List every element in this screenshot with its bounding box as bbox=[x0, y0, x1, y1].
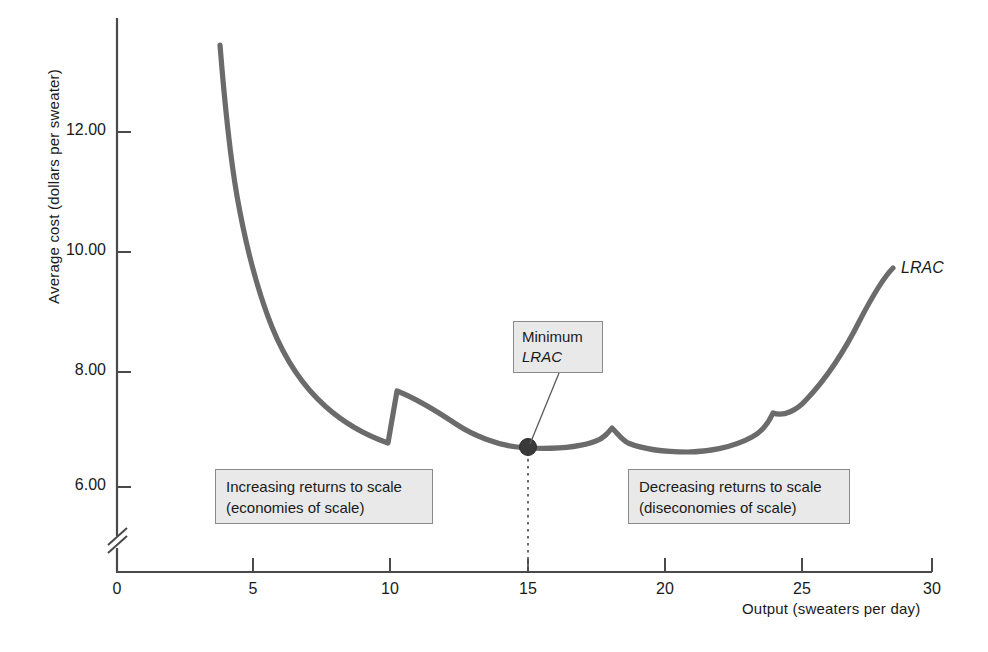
decreasing-returns-note: Decreasing returns to scale (diseconomie… bbox=[628, 469, 850, 524]
lrac-curve bbox=[220, 45, 893, 452]
increasing-returns-note: Increasing returns to scale (economies o… bbox=[215, 469, 433, 524]
lrac-curve-label: LRAC bbox=[901, 259, 944, 277]
y-tick-label-6: 6.00 bbox=[46, 476, 106, 494]
y-tick-label-8: 8.00 bbox=[46, 361, 106, 379]
callout-leader-line bbox=[530, 373, 559, 444]
x-tick-label-30: 30 bbox=[912, 580, 952, 598]
x-tick-label-25: 25 bbox=[782, 580, 822, 598]
minimum-lrac-callout-line2: LRAC bbox=[522, 348, 562, 365]
y-tick-label-10: 10.00 bbox=[46, 241, 106, 259]
x-tick-label-5: 5 bbox=[233, 580, 273, 598]
lrac-chart-figure: Average cost (dollars per sweater) Outpu… bbox=[0, 0, 988, 652]
x-tick-label-0: 0 bbox=[97, 580, 137, 598]
plot-area bbox=[0, 0, 988, 652]
x-axis-title: Output (sweaters per day) bbox=[742, 600, 920, 617]
y-axis-title: Average cost (dollars per sweater) bbox=[45, 37, 62, 337]
x-tick-label-20: 20 bbox=[645, 580, 685, 598]
x-tick-label-15: 15 bbox=[508, 580, 548, 598]
y-tick-label-12: 12.00 bbox=[46, 121, 106, 139]
minimum-lrac-marker bbox=[520, 439, 537, 456]
x-tick-label-10: 10 bbox=[370, 580, 410, 598]
minimum-lrac-callout-line1: Minimum bbox=[522, 328, 583, 345]
minimum-lrac-callout: MinimumLRAC bbox=[513, 321, 603, 373]
